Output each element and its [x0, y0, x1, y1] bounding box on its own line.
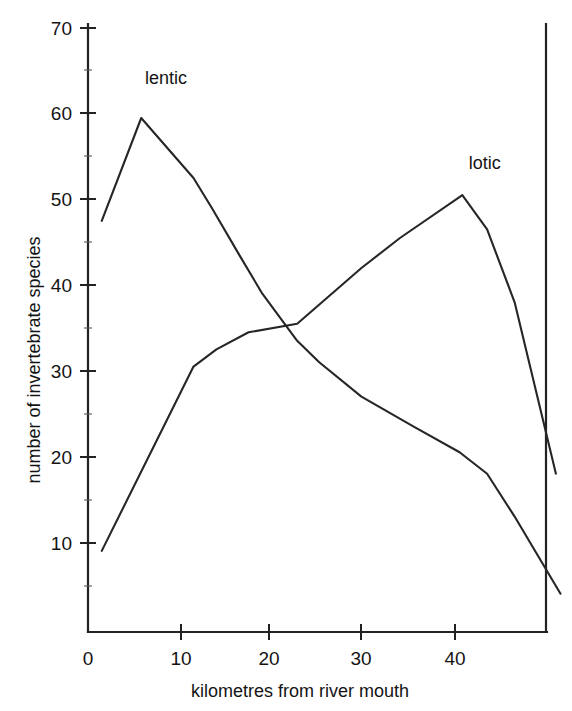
y-tick-label-50: 50 — [51, 189, 72, 210]
x-tick-label-30: 30 — [350, 648, 371, 669]
y-tick-label-70: 70 — [51, 18, 72, 39]
y-tick-label-10: 10 — [51, 533, 72, 554]
x-tick-label-40: 40 — [444, 648, 465, 669]
series-label-lentic: lentic — [145, 68, 187, 88]
x-tick-label-20: 20 — [258, 648, 279, 669]
x-tick-label-0: 0 — [83, 648, 94, 669]
y-tick-label-40: 40 — [51, 275, 72, 296]
y-tick-label-30: 30 — [51, 361, 72, 382]
y-tick-label-20: 20 — [51, 447, 72, 468]
page-caption-fragment — [8, 697, 564, 711]
series-line-lentic — [102, 118, 561, 594]
y-axis-title: number of invertebrate species — [24, 236, 44, 483]
x-tick-label-10: 10 — [170, 648, 191, 669]
y-tick-label-60: 60 — [51, 103, 72, 124]
series-line-lotic — [102, 195, 556, 551]
line-chart: 70 60 50 40 30 20 10 0 10 20 30 40 kilom… — [0, 0, 572, 711]
figure-container: 70 60 50 40 30 20 10 0 10 20 30 40 kilom… — [0, 0, 572, 711]
series-label-lotic: lotic — [469, 153, 501, 173]
